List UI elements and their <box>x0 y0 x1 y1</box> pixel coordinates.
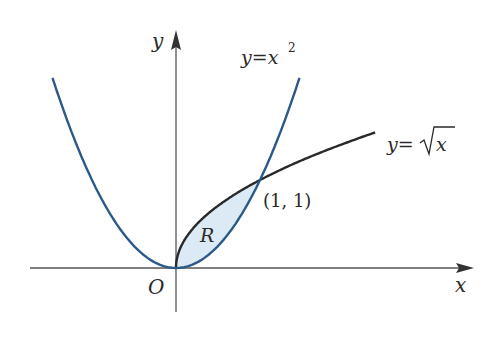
region-label: R <box>199 224 214 246</box>
x-axis-label: x <box>455 273 466 297</box>
svg-text:2: 2 <box>288 41 296 55</box>
origin-label: O <box>148 275 164 299</box>
region-r <box>176 180 260 268</box>
intersection-label: (1, 1) <box>263 190 311 211</box>
svg-text:y=: y= <box>386 133 414 155</box>
svg-text:x: x <box>436 133 447 155</box>
y-axis-label: y <box>151 29 164 53</box>
parabola-equation-label: y=x 2 <box>240 41 296 68</box>
sqrt-equation-label: y= x <box>386 127 455 155</box>
y-axis-arrow-icon <box>171 30 181 50</box>
diagram-canvas: y x O R (1, 1) y=x 2 y= x <box>0 0 497 337</box>
svg-text:y=x: y=x <box>240 46 279 68</box>
